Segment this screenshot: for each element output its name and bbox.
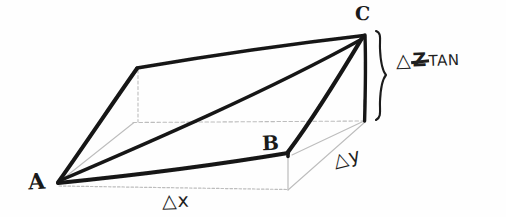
dimension-label-delta-x: △x bbox=[162, 191, 191, 211]
delta-symbol: △ bbox=[396, 51, 411, 70]
wedge-outline-edges bbox=[58, 35, 365, 183]
hidden-base-back-edge bbox=[133, 121, 364, 123]
vertex-label-b: B bbox=[262, 133, 280, 154]
diagram-canvas: A B C △x △y △ Z TAN bbox=[0, 0, 506, 217]
vertex-label-c: C bbox=[355, 4, 371, 24]
vertex-label-a: A bbox=[27, 170, 45, 193]
tan-subscript: TAN bbox=[428, 53, 459, 69]
height-brace bbox=[376, 31, 386, 120]
vertical-height-line-c bbox=[365, 35, 366, 121]
wedge-diagram-svg bbox=[0, 0, 506, 217]
edge-d-to-c bbox=[137, 36, 364, 69]
hidden-construction-lines bbox=[59, 70, 365, 190]
z-bar-symbol: Z bbox=[411, 50, 427, 70]
dimension-label-delta-z-tan: △ Z TAN bbox=[396, 49, 460, 70]
edge-c-to-b bbox=[288, 37, 363, 153]
